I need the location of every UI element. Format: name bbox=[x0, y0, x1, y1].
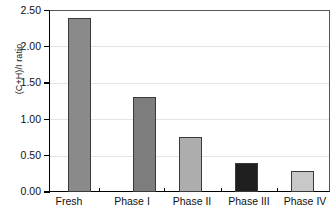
x-category-label-phase-ii: Phase II bbox=[163, 196, 221, 207]
gridline-2.00 bbox=[50, 46, 329, 47]
gridline-1.50 bbox=[50, 83, 329, 84]
x-category-label-fresh: Fresh bbox=[40, 196, 98, 207]
plot-area bbox=[49, 10, 330, 192]
y-tick-label-2.00: 2.00 bbox=[0, 41, 41, 52]
x-tick-mark-4 bbox=[277, 188, 278, 192]
y-tick-label-0.50: 0.50 bbox=[0, 150, 41, 161]
chart-figure: (C+H)/I ratio 2.50 2.00 1.50 1.00 0.50 0… bbox=[0, 0, 334, 214]
bar-fresh[interactable] bbox=[68, 18, 91, 192]
x-category-label-phase-iii: Phase III bbox=[220, 196, 278, 207]
y-tick-label-1.50: 1.50 bbox=[0, 77, 41, 88]
y-axis-label: (C+H)/I ratio bbox=[14, 14, 24, 124]
x-tick-mark-1 bbox=[99, 188, 100, 192]
x-category-label-phase-iv: Phase IV bbox=[276, 196, 334, 207]
gridline-1.00 bbox=[50, 119, 329, 120]
y-tick-label-0.00: 0.00 bbox=[0, 186, 41, 197]
x-tick-mark-3 bbox=[221, 188, 222, 192]
bar-phase-ii[interactable] bbox=[179, 137, 202, 192]
x-tick-mark-2 bbox=[164, 188, 165, 192]
bar-phase-i[interactable] bbox=[133, 97, 156, 192]
y-tick-label-1.00: 1.00 bbox=[0, 114, 41, 125]
x-category-label-phase-i: Phase I bbox=[103, 196, 161, 207]
bar-phase-iv[interactable] bbox=[291, 171, 314, 191]
bar-phase-iii[interactable] bbox=[235, 163, 258, 192]
y-tick-label-2.50: 2.50 bbox=[0, 5, 41, 16]
